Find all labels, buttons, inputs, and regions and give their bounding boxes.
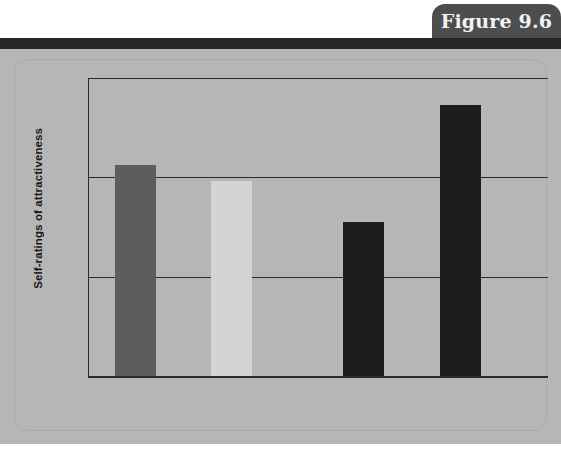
bar bbox=[115, 165, 156, 376]
bar bbox=[343, 222, 384, 376]
figure-number-tab: Figure 9.6 bbox=[432, 4, 561, 40]
bar bbox=[211, 181, 252, 376]
x-axis-line bbox=[88, 376, 548, 378]
y-axis-line bbox=[88, 78, 89, 377]
bar bbox=[440, 105, 481, 376]
header-divider-rule bbox=[0, 38, 561, 49]
bar-chart-plot-area: 4.03.02.01.0 AttractiveUnattractiveAttra… bbox=[88, 78, 548, 376]
figure-number-label: Figure 9.6 bbox=[441, 10, 553, 32]
gridline-4.0 bbox=[88, 78, 548, 79]
y-axis-title: Self-ratings of attractiveness bbox=[32, 128, 50, 289]
